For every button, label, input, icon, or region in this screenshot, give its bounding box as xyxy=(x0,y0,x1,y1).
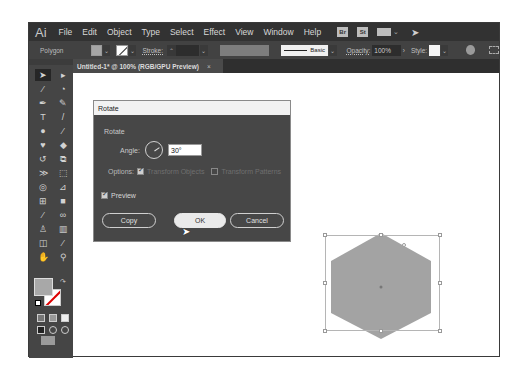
selection-tool-icon[interactable]: ➤ xyxy=(35,69,51,81)
eraser-tool-icon[interactable]: ◆ xyxy=(55,139,71,151)
menu-file[interactable]: File xyxy=(59,27,73,37)
stroke-swatch[interactable] xyxy=(116,45,127,56)
menu-view[interactable]: View xyxy=(235,27,253,37)
profile-label: Basic xyxy=(310,47,325,53)
width-tool-icon[interactable]: ≫ xyxy=(35,167,51,179)
menu-window[interactable]: Window xyxy=(263,27,293,37)
type-tool-icon[interactable]: T xyxy=(35,111,51,123)
stroke-stepper[interactable]: ⌃ xyxy=(167,45,176,56)
app-logo: Ai xyxy=(35,25,47,40)
slice-tool-icon[interactable]: ⁄ xyxy=(55,237,71,249)
scale-tool-icon[interactable]: ⧉ xyxy=(55,153,71,165)
curvature-tool-icon[interactable]: ✎ xyxy=(55,97,71,109)
selected-hexagon[interactable] xyxy=(321,231,441,341)
style-swatch[interactable] xyxy=(429,45,439,56)
artboard-tool-icon[interactable]: ◫ xyxy=(35,237,51,249)
draw-inside-icon[interactable] xyxy=(61,326,69,334)
transform-icon[interactable] xyxy=(489,46,499,54)
none-mode-icon[interactable] xyxy=(61,314,69,322)
hand-tool-icon[interactable]: ✋ xyxy=(35,251,51,263)
corner-widget[interactable] xyxy=(402,243,406,247)
resize-handle[interactable] xyxy=(438,281,442,285)
pen-tool-icon[interactable]: ✒ xyxy=(35,97,51,109)
resize-handle[interactable] xyxy=(379,233,383,237)
paintbrush-tool-icon[interactable]: ⁄ xyxy=(55,125,71,137)
angle-input[interactable] xyxy=(168,144,202,156)
draw-normal-icon[interactable] xyxy=(37,326,45,334)
color-mode-row xyxy=(37,314,69,322)
menu-type[interactable]: Type xyxy=(142,27,160,37)
free-transform-tool-icon[interactable]: ⬚ xyxy=(55,167,71,179)
fill-color-box[interactable] xyxy=(34,278,53,296)
recolor-icon[interactable] xyxy=(466,45,475,55)
workspace-icon[interactable] xyxy=(377,28,391,36)
resize-handle[interactable] xyxy=(323,233,327,237)
document-tab-title: Untitled-1* @ 100% (RGB/GPU Preview) xyxy=(77,63,199,70)
opacity-label[interactable]: Opacity: xyxy=(347,47,371,54)
screen-mode-icon[interactable] xyxy=(41,336,55,345)
menu-object[interactable]: Object xyxy=(107,27,132,37)
preview-row: Preview xyxy=(101,192,136,199)
mesh-tool-icon[interactable]: ⊞ xyxy=(35,195,51,207)
stroke-dropdown[interactable]: ⌄ xyxy=(129,45,137,56)
magic-wand-tool-icon[interactable]: ⁄ xyxy=(35,83,51,95)
fill-dropdown[interactable]: ⌄ xyxy=(103,45,111,56)
menu-select[interactable]: Select xyxy=(170,27,194,37)
default-colors-icon[interactable] xyxy=(35,300,41,306)
resize-handle[interactable] xyxy=(438,329,442,333)
blend-tool-icon[interactable]: ∞ xyxy=(55,209,71,221)
fill-swatch[interactable] xyxy=(91,45,102,56)
transform-objects-checkbox[interactable] xyxy=(137,168,144,175)
resize-handle[interactable] xyxy=(379,329,383,333)
shaper-tool-icon[interactable]: ♥ xyxy=(35,139,51,151)
menu-edit[interactable]: Edit xyxy=(82,27,97,37)
variable-width-profile[interactable] xyxy=(220,45,269,56)
opacity-arrow-icon[interactable]: › xyxy=(403,47,405,54)
zoom-tool-icon[interactable]: ⚲ xyxy=(55,251,71,263)
column-graph-tool-icon[interactable]: ▥ xyxy=(55,223,71,235)
symbol-sprayer-tool-icon[interactable]: ♙ xyxy=(35,223,51,235)
options-label: Options: xyxy=(108,168,134,175)
draw-behind-icon[interactable] xyxy=(49,326,57,334)
selection-type-label: Polygon xyxy=(40,47,64,54)
stroke-label[interactable]: Stroke: xyxy=(142,47,163,54)
resize-handle[interactable] xyxy=(323,329,327,333)
bridge-icon[interactable]: Br xyxy=(337,27,348,37)
document-tab[interactable]: Untitled-1* @ 100% (RGB/GPU Preview) × xyxy=(73,59,223,73)
resize-handle[interactable] xyxy=(438,233,442,237)
gradient-tool-icon[interactable]: ■ xyxy=(55,195,71,207)
copy-button[interactable]: Copy xyxy=(102,213,156,228)
preview-checkbox[interactable] xyxy=(101,192,108,199)
style-label: Style: xyxy=(411,47,427,54)
direct-selection-tool-icon[interactable]: ▸ xyxy=(55,69,71,81)
stroke-weight-input[interactable] xyxy=(176,45,199,56)
cancel-button[interactable]: Cancel xyxy=(230,213,284,228)
perspective-grid-tool-icon[interactable]: ⊿ xyxy=(55,181,71,193)
shape-builder-tool-icon[interactable]: ◎ xyxy=(35,181,51,193)
resize-handle[interactable] xyxy=(323,281,327,285)
close-icon[interactable]: × xyxy=(207,63,211,70)
color-mode-icon[interactable] xyxy=(37,314,45,322)
brush-profile[interactable]: Basic xyxy=(281,45,328,56)
profile-dropdown[interactable]: ⌄ xyxy=(329,45,337,56)
opacity-input[interactable]: 100% xyxy=(372,45,400,56)
send-icon[interactable]: ➤ xyxy=(411,27,419,38)
ellipse-tool-icon[interactable]: ● xyxy=(35,125,51,137)
dialog-title[interactable]: Rotate xyxy=(94,101,290,115)
menu-help[interactable]: Help xyxy=(304,27,321,37)
stock-icon[interactable]: St xyxy=(357,27,368,37)
transform-patterns-label: Transform Patterns xyxy=(221,168,281,175)
menu-effect[interactable]: Effect xyxy=(204,27,226,37)
style-dropdown[interactable]: ⌄ xyxy=(441,45,449,56)
lasso-tool-icon[interactable]: ◔ xyxy=(55,83,71,95)
gradient-mode-icon[interactable] xyxy=(49,314,57,322)
angle-dial[interactable] xyxy=(145,141,163,159)
stroke-weight-dropdown[interactable]: ⌄ xyxy=(200,45,208,56)
eyedropper-tool-icon[interactable]: ⁄ xyxy=(35,209,51,221)
rotate-tool-icon[interactable]: ↺ xyxy=(35,153,51,165)
transform-patterns-checkbox[interactable] xyxy=(211,168,218,175)
section-label: Rotate xyxy=(104,128,125,135)
chevron-down-icon[interactable]: ⌄ xyxy=(393,28,399,36)
swap-colors-icon[interactable]: ↷ xyxy=(60,278,66,286)
line-tool-icon[interactable]: / xyxy=(55,111,71,123)
